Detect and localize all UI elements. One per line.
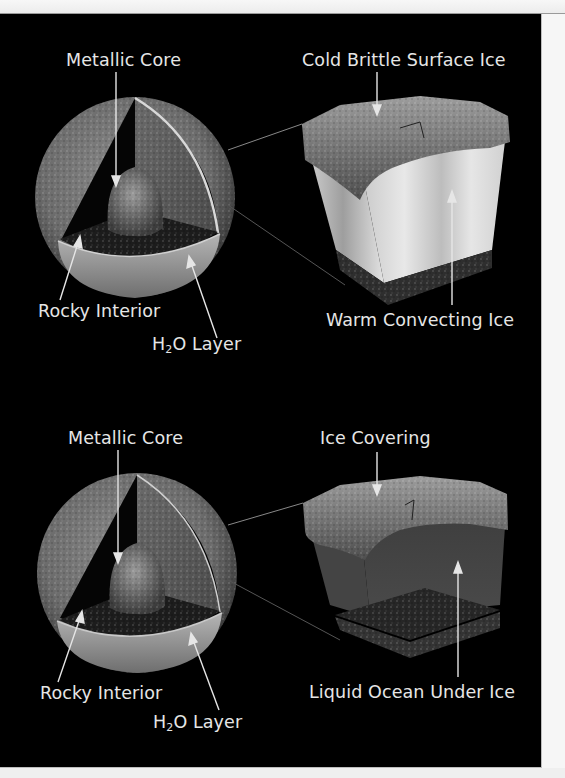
ice-block-top (302, 96, 510, 305)
label-rocky-interior-bottom: Rocky Interior (40, 685, 162, 703)
h2o-suffix: O Layer (173, 712, 242, 732)
diagram-artwork (0, 0, 565, 778)
sphere-cutaway-bottom (37, 473, 340, 673)
label-liquid-ocean-under-ice: Liquid Ocean Under Ice (309, 684, 515, 702)
label-ice-covering: Ice Covering (320, 430, 431, 448)
label-rocky-interior-top: Rocky Interior (38, 303, 160, 321)
label-cold-brittle-surface-ice: Cold Brittle Surface Ice (302, 52, 506, 70)
h2o-suffix: O Layer (172, 334, 241, 354)
ice-block-bottom (303, 476, 508, 658)
sphere-cutaway-top (35, 97, 345, 298)
label-metallic-core-top: Metallic Core (66, 52, 181, 70)
label-warm-convecting-ice: Warm Convecting Ice (326, 312, 514, 330)
label-h2o-layer-bottom: H2O Layer (153, 714, 242, 732)
h2o-prefix: H (153, 712, 166, 732)
h2o-prefix: H (152, 334, 165, 354)
label-h2o-layer-top: H2O Layer (152, 336, 241, 354)
label-metallic-core-bottom: Metallic Core (68, 430, 183, 448)
